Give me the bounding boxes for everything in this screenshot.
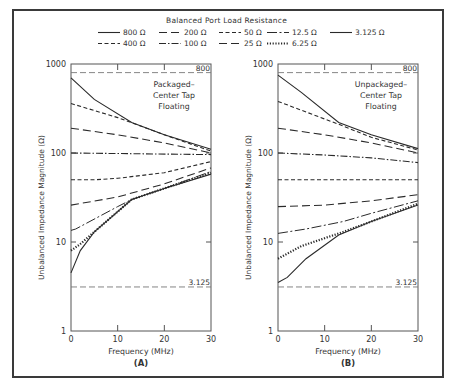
legend-entry: 200 Ω (159, 28, 207, 37)
plot-panel-a: 010203011010010008003.125Packaged–Center… (37, 60, 216, 368)
legend-label: 12.5 Ω (292, 28, 317, 37)
legend-entry: 25 Ω (219, 39, 262, 48)
series-line (278, 201, 418, 234)
y-tick-label: 100 (258, 149, 273, 158)
series-line (278, 205, 418, 283)
x-tick-label: 30 (413, 335, 423, 344)
panel-annotation: Center Tap (153, 91, 195, 100)
y-tick-label: 1000 (46, 60, 66, 69)
y-tick-label: 100 (51, 149, 66, 158)
y-tick-label: 10 (263, 238, 273, 247)
series-line (71, 162, 211, 180)
panel-annotation: Unpackaged– (355, 80, 408, 89)
legend-entry: 100 Ω (159, 39, 207, 48)
y-tick-label: 1 (268, 327, 273, 336)
legend-label: 200 Ω (184, 28, 207, 37)
legend-label: 800 Ω (123, 28, 146, 37)
x-tick-label: 30 (206, 335, 216, 344)
reference-line-label: 3.125 (396, 278, 418, 287)
series-line (71, 153, 211, 155)
legend-entry: 3.125 Ω (330, 28, 385, 37)
panel-annotation: Floating (158, 102, 189, 111)
series-line (278, 128, 418, 153)
legend-label: 100 Ω (184, 39, 207, 48)
y-tick-label: 1000 (253, 60, 273, 69)
legend-label: 3.125 Ω (355, 28, 385, 37)
reference-line-label: 3.125 (189, 278, 211, 287)
legend-entry: 800 Ω (98, 28, 146, 37)
x-tick-label: 10 (320, 335, 330, 344)
x-tick-label: 0 (68, 335, 73, 344)
series-line (71, 168, 211, 205)
x-axis-label: Frequency (MHz) (315, 347, 381, 356)
reference-line-label: 800 (196, 64, 211, 73)
panel-annotation: Center Tap (360, 91, 402, 100)
y-tick-label: 10 (56, 238, 66, 247)
plot-area (71, 64, 211, 331)
panel-annotation: Packaged– (153, 80, 194, 89)
y-tick-label: 1 (61, 327, 66, 336)
panel-label: (B) (341, 358, 355, 368)
plot-area (278, 64, 418, 331)
legend-label: 400 Ω (123, 39, 146, 48)
legend: 800 Ω200 Ω50 Ω12.5 Ω3.125 Ω400 Ω100 Ω25 … (98, 28, 385, 48)
legend-label: 6.25 Ω (292, 39, 317, 48)
x-tick-label: 20 (366, 335, 376, 344)
x-tick-label: 20 (159, 335, 169, 344)
panel-annotation: Floating (365, 102, 396, 111)
chart-canvas: 800 Ω200 Ω50 Ω12.5 Ω3.125 Ω400 Ω100 Ω25 … (0, 0, 453, 390)
reference-line-label: 800 (403, 64, 418, 73)
series-line (71, 104, 211, 152)
legend-label: 25 Ω (244, 39, 262, 48)
x-axis-label: Frequency (MHz) (108, 347, 174, 356)
legend-label: 50 Ω (244, 28, 262, 37)
legend-entry: 400 Ω (98, 39, 146, 48)
legend-entry: 6.25 Ω (267, 39, 317, 48)
series-line (71, 174, 211, 273)
legend-entry: 12.5 Ω (267, 28, 317, 37)
series-line (278, 195, 418, 207)
plot-panel-b: 010203011010010008003.125Unpackaged–Cent… (244, 60, 423, 368)
legend-entry: 50 Ω (219, 28, 262, 37)
y-axis-label: Unbalanced Impedance Magnitude (Ω) (244, 135, 253, 280)
series-line (71, 128, 211, 153)
panel-label: (A) (134, 358, 148, 368)
x-tick-label: 10 (113, 335, 123, 344)
y-axis-label: Unbalanced Impedance Magnitude (Ω) (37, 135, 46, 280)
x-tick-label: 0 (275, 335, 280, 344)
series-line (71, 173, 211, 251)
series-line (278, 153, 418, 163)
